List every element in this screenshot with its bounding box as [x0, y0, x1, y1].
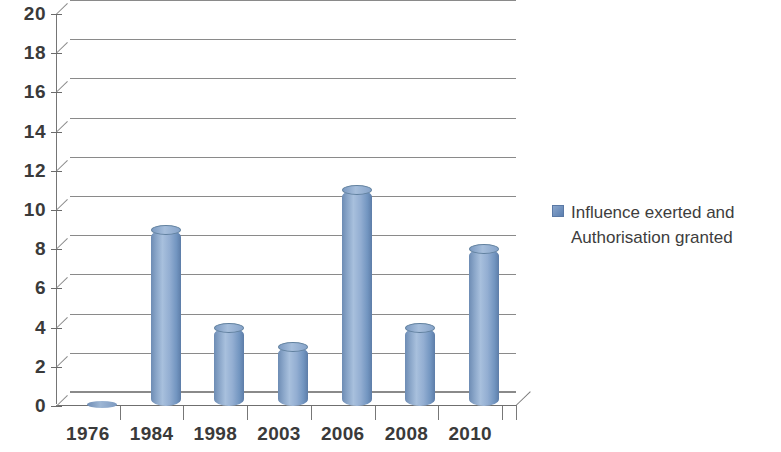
bar-top-ellipse — [151, 225, 181, 235]
bar-body — [278, 347, 308, 406]
bar-body — [405, 328, 435, 406]
y-tick-label: 20 — [0, 4, 46, 23]
y-tick-label: 8 — [0, 239, 46, 258]
x-tick-mark — [375, 406, 376, 420]
y-tick-mark — [51, 92, 62, 93]
bar — [151, 230, 181, 406]
x-tick-label: 2010 — [440, 424, 500, 445]
y-tick-mark — [51, 249, 62, 250]
x-tick-mark — [247, 406, 248, 420]
legend: Influence exerted and Authorisation gran… — [552, 201, 781, 250]
y-tick-label: 0 — [0, 396, 46, 415]
y-axis-labels: 02468101214161820 — [0, 0, 46, 452]
y-tick-mark — [51, 171, 62, 172]
gridline — [70, 78, 516, 79]
gridline — [70, 235, 516, 236]
legend-label: Influence exerted and Authorisation gran… — [571, 201, 735, 250]
gridline — [70, 196, 516, 197]
y-tick-mark — [51, 288, 62, 289]
x-tick-mark — [183, 406, 184, 420]
y-tick-mark — [51, 406, 62, 407]
bar-body — [151, 230, 181, 406]
bar-body — [214, 328, 244, 406]
x-tick-mark — [311, 406, 312, 420]
y-tick-label: 10 — [0, 200, 46, 219]
bar — [214, 328, 244, 406]
bar-top-ellipse — [214, 323, 244, 333]
x-tick-label: 2008 — [376, 424, 436, 445]
y-tick-mark — [51, 328, 62, 329]
plot-area — [56, 0, 536, 420]
bar-body — [469, 249, 499, 406]
y-tick-label: 16 — [0, 82, 46, 101]
x-tick-label: 1998 — [185, 424, 245, 445]
x-tick-label: 2003 — [249, 424, 309, 445]
x-tick-label: 1976 — [58, 424, 118, 445]
bar-chart: 02468101214161820 1976198419982003200620… — [0, 0, 781, 452]
bar-body — [342, 190, 372, 406]
x-axis-labels: 1976198419982003200620082010 — [56, 424, 536, 452]
y-tick-label: 18 — [0, 43, 46, 62]
y-tick-mark — [51, 210, 62, 211]
gridline — [70, 39, 516, 40]
bar — [405, 328, 435, 406]
y-tick-label: 14 — [0, 122, 46, 141]
gridline — [70, 118, 516, 119]
y-tick-mark — [51, 132, 62, 133]
floor-right-edge — [516, 391, 531, 406]
gridline — [70, 157, 516, 158]
bar-zero — [87, 401, 117, 408]
x-tick-mark — [502, 406, 503, 420]
y-tick-label: 4 — [0, 318, 46, 337]
y-tick-label: 2 — [0, 357, 46, 376]
bar — [469, 249, 499, 406]
y-tick-mark — [51, 367, 62, 368]
y-tick-mark — [51, 14, 62, 15]
legend-swatch-icon — [552, 205, 564, 217]
gridline — [70, 314, 516, 315]
x-tick-label: 1984 — [122, 424, 182, 445]
bar — [342, 190, 372, 406]
bar-top-ellipse — [405, 323, 435, 333]
y-tick-label: 12 — [0, 161, 46, 180]
x-tick-label: 2006 — [313, 424, 373, 445]
gridline — [70, 0, 516, 1]
y-tick-label: 6 — [0, 278, 46, 297]
y-tick-mark — [51, 53, 62, 54]
x-tick-mark — [438, 406, 439, 420]
floor-right-vertical-edge — [516, 405, 517, 420]
x-tick-mark — [120, 406, 121, 420]
bar — [278, 347, 308, 406]
gridline — [70, 274, 516, 275]
